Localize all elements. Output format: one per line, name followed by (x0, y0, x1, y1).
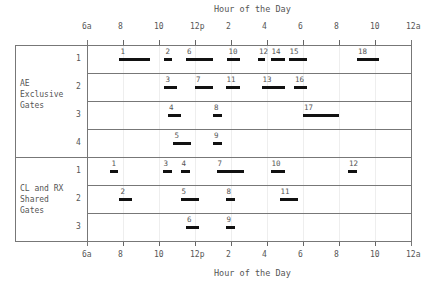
x-tick-label-top: 6a (82, 22, 92, 31)
flight-bar (271, 170, 285, 173)
flight-bar (119, 58, 150, 61)
bottom-axis-title: Hour of the Day (214, 268, 291, 278)
flight-label: 5 (182, 188, 187, 196)
flight-label: 10 (228, 48, 237, 56)
flight-label: 9 (227, 216, 232, 224)
row-divider (87, 73, 411, 74)
flight-bar (186, 226, 199, 229)
flight-bar (294, 86, 307, 89)
grid-line (123, 45, 124, 241)
flight-bar (262, 86, 285, 89)
flight-label: 12 (349, 160, 358, 168)
gate-number: 1 (76, 54, 81, 63)
x-tick-label-top: 10 (154, 22, 164, 31)
flight-label: 1 (111, 160, 116, 168)
flight-label: 14 (272, 48, 281, 56)
x-tick-label-top: 12a (406, 22, 420, 31)
x-tick-label-bottom: 6a (82, 250, 92, 259)
x-tick-label-bottom: 2 (226, 250, 231, 259)
flight-bar (213, 142, 222, 145)
gate-number: 2 (76, 194, 81, 203)
frame-divider (87, 40, 88, 246)
flight-bar (357, 58, 379, 61)
top-axis-title: Hour of the Day (214, 4, 291, 14)
flight-bar (280, 198, 298, 201)
x-tick-label-bottom: 6 (298, 250, 303, 259)
x-tick-label-top: 12p (190, 22, 204, 31)
x-tick-label-top: 2 (226, 22, 231, 31)
flight-bar (258, 58, 265, 61)
frame-left (15, 45, 16, 241)
x-tick-label-top: 8 (334, 22, 339, 31)
gate-number: 2 (76, 82, 81, 91)
frame-top (15, 45, 411, 46)
row-divider (87, 185, 411, 186)
flight-bar (226, 86, 240, 89)
flight-bar (195, 86, 213, 89)
flight-label: 13 (263, 76, 272, 84)
flight-bar (181, 198, 199, 201)
flight-label: 15 (290, 48, 299, 56)
flight-label: 11 (227, 76, 236, 84)
flight-bar (226, 198, 235, 201)
flight-label: 1 (120, 48, 125, 56)
flight-label: 16 (295, 76, 304, 84)
flight-label: 4 (182, 160, 187, 168)
x-tick-label-top: 6 (298, 22, 303, 31)
flight-bar (119, 198, 132, 201)
flight-bar (181, 170, 190, 173)
x-tick-label-top: 4 (262, 22, 267, 31)
flight-bar (186, 58, 213, 61)
flight-bar (348, 170, 357, 173)
flight-label: 9 (214, 132, 219, 140)
flight-label: 8 (214, 104, 219, 112)
grid-line (375, 45, 376, 241)
frame-right (411, 40, 412, 246)
flight-bar (173, 142, 191, 145)
flight-label: 3 (164, 160, 169, 168)
x-tick-label-top: 8 (118, 22, 123, 31)
flight-label: 8 (227, 188, 232, 196)
flight-label: 3 (165, 76, 170, 84)
gate-assignment-chart: Hour of the Day Hour of the Day AE Exclu… (0, 0, 434, 287)
flight-bar (303, 114, 339, 117)
flight-bar (226, 226, 235, 229)
row-divider (87, 129, 411, 130)
x-tick-label-top: 10 (370, 22, 380, 31)
row-divider (87, 101, 411, 102)
gate-number: 1 (76, 166, 81, 175)
gate-number: 3 (76, 110, 81, 119)
x-tick-label-bottom: 10 (370, 250, 380, 259)
flight-label: 10 (272, 160, 281, 168)
group-label-ae: AE Exclusive Gates (20, 78, 63, 111)
flight-label: 2 (120, 188, 125, 196)
frame-bottom (15, 241, 411, 242)
group-label-cl-rx: CL and RX Shared Gates (20, 183, 63, 216)
row-divider (87, 213, 411, 214)
x-tick-label-bottom: 12a (406, 250, 420, 259)
x-tick-label-bottom: 12p (190, 250, 204, 259)
grid-line (339, 45, 340, 241)
flight-bar (217, 170, 244, 173)
x-tick-label-bottom: 10 (154, 250, 164, 259)
flight-bar (289, 58, 307, 61)
flight-label: 5 (174, 132, 179, 140)
flight-bar (271, 58, 285, 61)
flight-bar (164, 86, 177, 89)
flight-bar (163, 170, 172, 173)
flight-label: 18 (358, 48, 367, 56)
flight-label: 7 (196, 76, 201, 84)
group-divider (15, 157, 411, 158)
x-tick-label-bottom: 8 (334, 250, 339, 259)
grid-line (159, 45, 160, 241)
flight-bar (227, 58, 240, 61)
flight-bar (213, 114, 222, 117)
flight-bar (164, 58, 171, 61)
x-tick-label-bottom: 4 (262, 250, 267, 259)
flight-label: 2 (165, 48, 170, 56)
flight-label: 4 (169, 104, 174, 112)
flight-label: 17 (304, 104, 313, 112)
flight-label: 7 (218, 160, 223, 168)
gate-number: 3 (76, 222, 81, 231)
flight-label: 6 (187, 48, 192, 56)
